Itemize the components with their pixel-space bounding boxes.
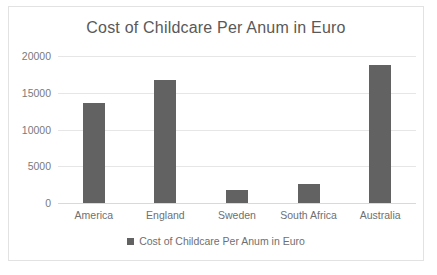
legend-swatch-icon bbox=[127, 238, 134, 245]
ytick-label-15000: 15000 bbox=[22, 87, 51, 99]
category-label-sweden: Sweden bbox=[218, 209, 256, 221]
ytick-label-10000: 10000 bbox=[22, 124, 51, 136]
bar-england[interactable] bbox=[154, 80, 176, 203]
bar-slot-australia: Australia bbox=[344, 56, 416, 203]
plot-area: 20000 15000 10000 5000 0 America England bbox=[58, 56, 416, 203]
bar-america[interactable] bbox=[83, 103, 105, 203]
ytick-label-20000: 20000 bbox=[22, 50, 51, 62]
chart-legend: Cost of Childcare Per Anum in Euro bbox=[9, 235, 423, 247]
bar-slot-america: America bbox=[58, 56, 130, 203]
ytick-label-0: 0 bbox=[45, 197, 51, 209]
category-label-south-africa: South Africa bbox=[280, 209, 337, 221]
bar-group: America England Sweden South Africa Aust… bbox=[58, 56, 416, 203]
bar-south-africa[interactable] bbox=[298, 184, 320, 203]
category-label-america: America bbox=[75, 209, 114, 221]
category-label-australia: Australia bbox=[360, 209, 401, 221]
bar-slot-sweden: Sweden bbox=[201, 56, 273, 203]
legend-label: Cost of Childcare Per Anum in Euro bbox=[139, 235, 305, 247]
bar-slot-south-africa: South Africa bbox=[273, 56, 345, 203]
ytick-label-5000: 5000 bbox=[28, 160, 51, 172]
bar-sweden[interactable] bbox=[226, 190, 248, 203]
bar-australia[interactable] bbox=[369, 65, 391, 203]
chart-container: Cost of Childcare Per Anum in Euro 20000… bbox=[8, 6, 424, 261]
gridline-0-baseline: 0 bbox=[58, 203, 416, 204]
category-label-england: England bbox=[146, 209, 185, 221]
bar-slot-england: England bbox=[130, 56, 202, 203]
chart-title: Cost of Childcare Per Anum in Euro bbox=[9, 19, 423, 37]
